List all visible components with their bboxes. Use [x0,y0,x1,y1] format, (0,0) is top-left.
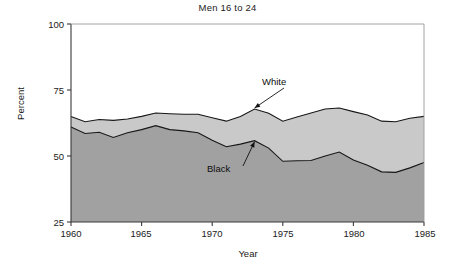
series-annotation-white: White [262,76,286,87]
x-tick-label-1980: 1980 [332,228,376,239]
chart-title: Men 16 to 24 [0,2,455,13]
chart-figure: Men 16 to 24 Percent 100 75 50 25 1960 1… [0,0,455,269]
y-tick-label-50: 50 [34,151,64,162]
x-tick-label-1965: 1965 [119,228,163,239]
y-tick-label-25: 25 [34,217,64,228]
annotation-arrowhead-white [255,103,261,108]
y-axis-title: Percent [15,74,26,134]
x-tick-label-1970: 1970 [190,228,234,239]
x-axis-title: Year [71,248,425,259]
x-tick-label-1960: 1960 [49,228,93,239]
series-annotation-black: Black [207,163,230,174]
x-tick-label-1985: 1985 [403,228,447,239]
y-tick-label-100: 100 [34,19,64,30]
y-tick-label-75: 75 [34,85,64,96]
x-tick-label-1975: 1975 [261,228,305,239]
